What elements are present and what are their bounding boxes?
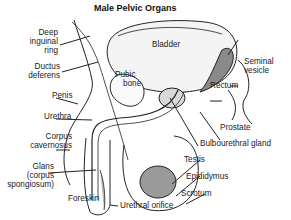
label-epididymus: Epididymus bbox=[186, 172, 228, 181]
label-foreskin: Foreskin bbox=[68, 194, 99, 203]
body-outline bbox=[64, 20, 92, 185]
label-line: Corpus bbox=[18, 132, 72, 141]
label-prostate: Prostate bbox=[220, 123, 251, 132]
label-rectum: Rectum bbox=[210, 81, 238, 90]
penis-shape bbox=[84, 138, 110, 215]
label-corpus-cavernosus: Corpus cavernosus bbox=[18, 132, 72, 150]
label-line: Seminal bbox=[244, 57, 274, 66]
label-scrotum: Scrotum bbox=[181, 189, 211, 198]
label-line: cavernosus bbox=[18, 141, 72, 150]
label-pubic-bone: Pubic bone bbox=[115, 70, 141, 88]
testis-shape bbox=[140, 166, 176, 198]
label-line: vesicle bbox=[244, 66, 274, 75]
label-ductus-deferens: Ductus deferens bbox=[16, 62, 60, 80]
label-urethral-orifice: Urethral orifice bbox=[120, 201, 173, 210]
label-urethra: Urethra bbox=[44, 112, 71, 121]
label-bladder: Bladder bbox=[152, 40, 180, 49]
label-line: inguinal bbox=[20, 37, 58, 46]
label-bulbourethral-gland: Bulbourethral gland bbox=[200, 139, 271, 148]
label-line: spongiosum) bbox=[0, 180, 54, 189]
label-line: deferens bbox=[16, 71, 60, 80]
label-line: Pubic bbox=[115, 70, 141, 79]
label-line: Ductus bbox=[16, 62, 60, 71]
diagram-title: Male Pelvic Organs bbox=[94, 3, 177, 13]
label-line: Deep bbox=[20, 28, 58, 37]
label-line: ring bbox=[20, 46, 58, 55]
label-glans: Glans (corpus spongiosum) bbox=[0, 162, 54, 189]
label-line: bone bbox=[115, 79, 141, 88]
label-penis: Penis bbox=[52, 91, 72, 100]
label-testis: Testis bbox=[184, 155, 205, 164]
label-line: (corpus bbox=[0, 171, 54, 180]
label-seminal-vesicle: Seminal vesicle bbox=[244, 57, 274, 75]
label-line: Glans bbox=[0, 162, 54, 171]
label-deep-inguinal-ring: Deep inguinal ring bbox=[20, 28, 58, 55]
